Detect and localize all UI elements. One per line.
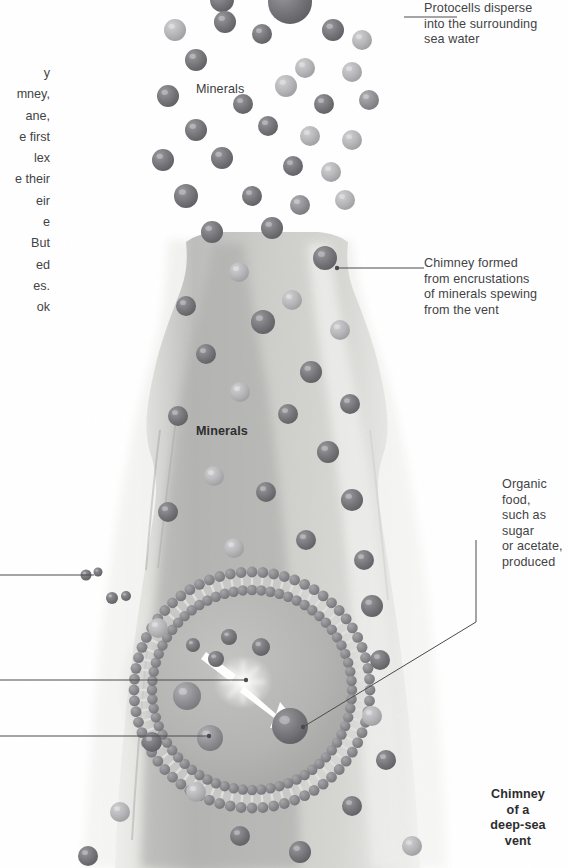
left-column-text: y mney, ane, e first lex e their eir e B… bbox=[0, 63, 50, 319]
minerals-label-top: Minerals bbox=[196, 82, 244, 98]
callout-organic-food: Organic food, such as sugar or acetate, … bbox=[502, 477, 568, 571]
diagram-stage: y mney, ane, e first lex e their eir e B… bbox=[0, 0, 568, 868]
paper-texture-overlay bbox=[0, 0, 568, 868]
callout-protocells: Protocells disperse into the surrounding… bbox=[424, 1, 568, 48]
callout-vent: Chimney of a deep-sea vent bbox=[476, 787, 560, 849]
vent-illustration bbox=[0, 0, 568, 868]
minerals-label-middle: Minerals bbox=[196, 424, 248, 440]
callout-chimney: Chimney formed from encrustations of min… bbox=[424, 256, 568, 318]
